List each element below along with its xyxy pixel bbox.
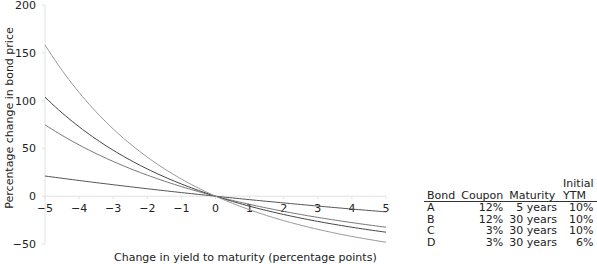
x-axis-ticks: −5−4−3−2−1012345 bbox=[37, 196, 390, 215]
y-tick-label: 200 bbox=[15, 0, 36, 12]
x-tick-label: 2 bbox=[280, 202, 287, 215]
y-tick-label: 100 bbox=[15, 95, 36, 108]
x-tick-label: 3 bbox=[314, 202, 321, 215]
legend-row: A 12% 5 years 10% bbox=[424, 202, 597, 214]
legend-header-maturity: Maturity bbox=[506, 178, 560, 202]
x-tick-label: −3 bbox=[105, 202, 121, 215]
legend-header-bond: Bond bbox=[424, 178, 458, 202]
x-tick-label: 0 bbox=[212, 202, 219, 215]
y-tick-label: 150 bbox=[15, 47, 36, 60]
y-tick-label: −50 bbox=[13, 238, 36, 251]
x-axis-title: Change in yield to maturity (percentage … bbox=[114, 251, 377, 264]
legend-row: D 3% 30 years 6% bbox=[424, 237, 597, 249]
legend-header-ytm: InitialYTM bbox=[560, 178, 596, 202]
x-tick-label: −1 bbox=[173, 202, 189, 215]
x-tick-label: 5 bbox=[383, 202, 390, 215]
y-tick-label: 50 bbox=[22, 142, 36, 155]
x-tick-label: −4 bbox=[71, 202, 87, 215]
x-tick-label: −2 bbox=[139, 202, 155, 215]
legend-row: C 3% 30 years 10% bbox=[424, 225, 597, 237]
legend-header-coupon: Coupon bbox=[458, 178, 506, 202]
bond-legend-table: Bond Coupon Maturity InitialYTM A 12% 5 … bbox=[424, 178, 597, 248]
y-tick-label: 0 bbox=[29, 190, 36, 203]
y-axis-title: Percentage change in bond price bbox=[3, 27, 16, 209]
